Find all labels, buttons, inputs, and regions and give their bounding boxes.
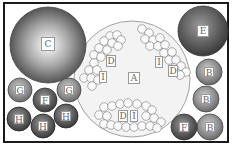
label-E: E — [197, 25, 209, 37]
label-I-upper-left: I — [99, 71, 107, 83]
label-A: A — [128, 72, 140, 84]
label-H-3: H — [61, 111, 71, 121]
label-I-bottom: I — [130, 110, 138, 122]
label-B-1: B — [204, 67, 214, 77]
circle-packing-diagram — [0, 0, 233, 147]
label-F-2: F — [179, 122, 189, 132]
label-D-bottom: D — [118, 110, 128, 122]
label-D-upper-left: D — [106, 55, 116, 67]
label-F-1: F — [40, 95, 50, 105]
label-H-1: H — [14, 114, 24, 124]
label-G-2: G — [64, 85, 74, 95]
label-G-1: G — [15, 85, 25, 95]
label-B-2: B — [201, 94, 211, 104]
label-C: C — [41, 37, 55, 51]
label-H-2: H — [38, 121, 48, 131]
label-D-upper-right: D — [168, 65, 178, 77]
label-I-upper-right: I — [155, 56, 163, 68]
label-B-3: B — [205, 122, 215, 132]
